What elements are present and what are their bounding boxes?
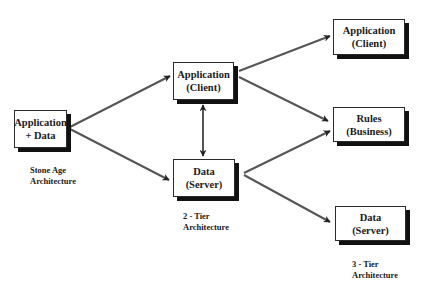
caption-2-tier-architecture: 2 - Tier Architecture <box>183 211 229 233</box>
caption-stone-age-architecture: Stone Age Architecture <box>30 165 76 187</box>
node-line-1: Application <box>14 116 67 129</box>
arrow-client-to-3tier-client <box>239 36 330 71</box>
node-line-1: Data <box>360 211 382 224</box>
node-2tier-data-server: Data (Server) <box>173 159 235 197</box>
caption-line-2: Architecture <box>30 176 76 187</box>
node-line-1: Application <box>177 68 230 81</box>
node-line-1: Data <box>193 165 215 178</box>
node-line-1: Rules <box>356 112 381 125</box>
caption-line-1: Stone Age <box>30 165 76 176</box>
node-application-data: Application + Data <box>14 110 67 148</box>
node-line-2: (Server) <box>352 224 389 237</box>
caption-line-2: Architecture <box>183 222 229 233</box>
node-line-2: (Business) <box>346 125 392 138</box>
arrow-stone-to-server <box>70 129 169 180</box>
node-3tier-rules-business: Rules (Business) <box>333 107 405 142</box>
diagram-canvas: Application + Data Application (Client) … <box>0 0 426 293</box>
caption-3-tier-architecture: 3 - Tier Architecture <box>352 259 398 281</box>
arrow-server-to-rules <box>244 131 330 173</box>
arrow-server-to-3tier-server <box>244 175 330 222</box>
node-3tier-data-server: Data (Server) <box>335 206 406 241</box>
node-line-2: (Client) <box>186 81 220 94</box>
node-3tier-application-client: Application (Client) <box>333 19 405 55</box>
node-line-2: (Client) <box>352 37 386 50</box>
caption-line-2: Architecture <box>352 270 398 281</box>
node-2tier-application-client: Application (Client) <box>173 62 234 100</box>
node-line-2: (Server) <box>186 178 223 191</box>
arrow-client-to-rules <box>239 77 328 121</box>
arrow-stone-to-client <box>70 76 170 127</box>
caption-line-1: 3 - Tier <box>352 259 398 270</box>
node-line-2: + Data <box>25 129 55 142</box>
caption-line-1: 2 - Tier <box>183 211 229 222</box>
node-line-1: Application <box>343 24 396 37</box>
